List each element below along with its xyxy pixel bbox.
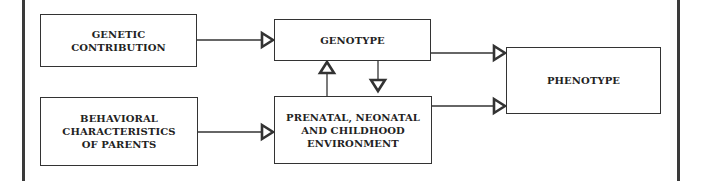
node-label: GENETIC CONTRIBUTION [71, 28, 166, 54]
arrowhead-icon [262, 33, 273, 47]
node-behavioral-characteristics: BEHAVIORAL CHARACTERISTICS OF PARENTS [40, 97, 198, 166]
arrowhead-icon [371, 80, 385, 91]
node-label: PHENOTYPE [547, 74, 620, 87]
arrowhead-icon [262, 125, 273, 139]
node-label: PRENATAL, NEONATAL AND CHILDHOOD ENVIRON… [286, 111, 420, 150]
node-label: BEHAVIORAL CHARACTERISTICS OF PARENTS [62, 112, 175, 151]
node-label: GENOTYPE [320, 34, 385, 47]
node-genotype: GENOTYPE [274, 19, 431, 61]
node-phenotype: PHENOTYPE [506, 47, 661, 114]
node-environment: PRENATAL, NEONATAL AND CHILDHOOD ENVIRON… [274, 96, 432, 164]
node-genetic-contribution: GENETIC CONTRIBUTION [40, 14, 197, 67]
arrowhead-icon [320, 62, 334, 73]
arrowhead-icon [494, 99, 505, 113]
arrowhead-icon [494, 46, 505, 60]
